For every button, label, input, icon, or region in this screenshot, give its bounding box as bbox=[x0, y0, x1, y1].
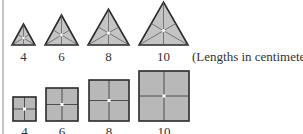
triangle-label-4: 4 bbox=[20, 49, 27, 64]
centroid-dot bbox=[107, 32, 110, 35]
square-label-4: 4 bbox=[21, 124, 28, 134]
triangle-label-8: 8 bbox=[105, 49, 112, 64]
center-dot bbox=[23, 108, 26, 111]
square-6 bbox=[46, 88, 78, 121]
square-8 bbox=[89, 80, 129, 121]
units-caption: (Lengths in centimeters) bbox=[192, 49, 303, 64]
square-10 bbox=[139, 71, 189, 121]
triangle-4 bbox=[12, 24, 35, 45]
center-dot bbox=[163, 95, 166, 98]
centroid-dot bbox=[60, 34, 63, 37]
triangle-label-10: 10 bbox=[157, 49, 170, 64]
square-label-6: 6 bbox=[59, 124, 66, 134]
center-dot bbox=[61, 103, 64, 106]
square-label-10: 10 bbox=[158, 124, 171, 134]
square-label-8: 8 bbox=[106, 124, 113, 134]
triangle-10 bbox=[139, 2, 188, 45]
centroid-dot bbox=[22, 37, 25, 40]
square-4 bbox=[13, 97, 36, 121]
center-dot bbox=[108, 99, 111, 102]
triangle-label-6: 6 bbox=[58, 49, 65, 64]
triangle-6 bbox=[45, 15, 78, 45]
shapes-figure: 4 6 8 10 (Lengths in centimeters) 4 6 8 … bbox=[0, 0, 303, 134]
triangle-8 bbox=[88, 9, 129, 45]
centroid-dot bbox=[162, 29, 165, 32]
